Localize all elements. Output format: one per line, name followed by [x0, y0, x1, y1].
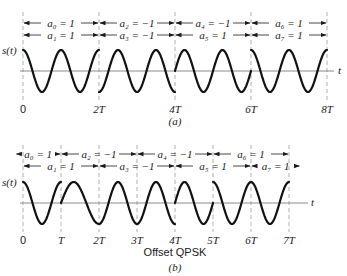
tick-label: 6T [245, 103, 258, 115]
y-axis-label: s(t) [2, 44, 17, 57]
tick-label: 2T [93, 103, 106, 115]
qpsk-waveform-figure: a₀ = 1a₂ = −1a₄ = −1a₆ = 1a₁ = 1a₃ = −1a… [0, 0, 347, 276]
symbol-label-rows: a₀ = 1a₂ = −1a₄ = −1a₆ = 1a₁ = 1a₃ = −1a… [16, 148, 299, 172]
symbol-span: a₃ = −1 [100, 29, 174, 41]
tick-label: T [58, 234, 65, 246]
symbol-label: a₂ = −1 [119, 17, 154, 29]
symbol-label: a₃ = −1 [119, 160, 154, 172]
panel-caption: (a) [169, 115, 182, 128]
symbol-span: a₆ = 1 [214, 148, 288, 160]
symbol-label: a₀ = 1 [47, 17, 75, 29]
symbol-label: a₅ = 1 [199, 29, 227, 41]
symbol-span: a₁ = 1 [24, 160, 98, 172]
symbol-span: a₄ = −1 [138, 148, 212, 160]
symbol-span: a₇ = 1 [252, 160, 299, 172]
tick-labels: 0T2T3T4T5T6T7T [20, 234, 296, 246]
tick-label: 4T [169, 234, 182, 246]
tick-label: 3T [130, 234, 144, 246]
figure-canvas: a₀ = 1a₂ = −1a₄ = −1a₆ = 1a₁ = 1a₃ = −1a… [0, 0, 347, 276]
tick-label: 6T [245, 234, 258, 246]
tick-label: 7T [283, 234, 296, 246]
symbol-label: a₄ = −1 [157, 148, 192, 160]
symbol-span: a₇ = 1 [252, 29, 326, 41]
symbol-span: a₂ = −1 [100, 17, 174, 29]
symbol-label: a₇ = 1 [262, 160, 290, 172]
symbol-span: a₁ = 1 [24, 29, 98, 41]
y-axis-label: s(t) [2, 176, 17, 189]
symbol-label: a₇ = 1 [275, 29, 303, 41]
panel-b-offset-qpsk: a₀ = 1a₂ = −1a₄ = −1a₆ = 1a₁ = 1a₃ = −1a… [2, 145, 315, 274]
symbol-label: a₄ = −1 [195, 17, 230, 29]
x-axis-label: t [338, 64, 342, 76]
symbol-span: a₂ = −1 [62, 148, 136, 160]
symbol-label: a₁ = 1 [47, 160, 75, 172]
x-axis-label: t [311, 196, 315, 208]
tick-label: 0 [20, 103, 26, 115]
symbol-label: a₆ = 1 [237, 148, 265, 160]
tick-label: 5T [207, 234, 220, 246]
symbol-span: a₅ = 1 [176, 29, 250, 41]
symbol-label: a₃ = −1 [119, 29, 154, 41]
symbol-label: a₀ = 1 [24, 148, 52, 160]
tick-label: 4T [169, 103, 182, 115]
symbol-label: a₅ = 1 [199, 160, 227, 172]
panel-a-qpsk: a₀ = 1a₂ = −1a₄ = −1a₆ = 1a₁ = 1a₃ = −1a… [2, 12, 342, 128]
symbol-span: a₀ = 1 [24, 17, 98, 29]
symbol-span: a₆ = 1 [252, 17, 326, 29]
symbol-label: a₆ = 1 [275, 17, 303, 29]
tick-label: 8T [321, 103, 334, 115]
symbol-span: a₄ = −1 [176, 17, 250, 29]
tick-label: 0 [20, 234, 26, 246]
tick-label: 2T [93, 234, 106, 246]
panel-caption: (b) [169, 261, 182, 274]
tick-labels: 02T4T6T8T [20, 103, 334, 115]
symbol-label: a₁ = 1 [47, 29, 75, 41]
panel-subtitle: Offset QPSK [144, 246, 207, 258]
symbol-label: a₂ = −1 [81, 148, 116, 160]
symbol-span: a₃ = −1 [100, 160, 174, 172]
symbol-span: a₅ = 1 [176, 160, 250, 172]
